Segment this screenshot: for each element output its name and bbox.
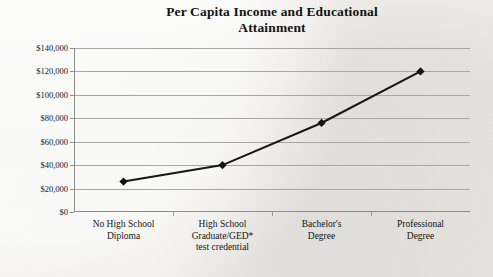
chart-title: Per Capita Income and Educational Attain… bbox=[74, 4, 470, 35]
plot-area bbox=[74, 48, 470, 212]
x-axis-tick bbox=[173, 212, 174, 216]
y-axis-tick bbox=[70, 212, 74, 213]
y-axis-label: $120,000 bbox=[0, 67, 68, 76]
x-axis-tick bbox=[371, 212, 372, 216]
data-series bbox=[74, 48, 470, 212]
x-axis-category-label: ProfessionalDegree bbox=[371, 219, 470, 242]
y-axis-label: $80,000 bbox=[0, 114, 68, 123]
x-axis-category-label: High SchoolGraduate/GED*test credential bbox=[173, 219, 272, 254]
chart-figure: Per Capita Income and Educational Attain… bbox=[0, 0, 493, 277]
y-axis-label: $140,000 bbox=[0, 44, 68, 53]
y-axis-label: $0 bbox=[0, 208, 68, 217]
x-axis-category-label-line: Diploma bbox=[74, 231, 173, 243]
x-axis-category-label-line: test credential bbox=[173, 242, 272, 254]
data-point-marker bbox=[416, 67, 424, 75]
series-line bbox=[124, 71, 421, 181]
chart-title-line-2: Attainment bbox=[238, 20, 306, 35]
y-axis-label: $60,000 bbox=[0, 138, 68, 147]
series-markers bbox=[119, 67, 424, 185]
data-point-marker bbox=[218, 161, 226, 169]
x-axis-category-label-line: Degree bbox=[371, 231, 470, 243]
data-point-marker bbox=[317, 119, 325, 127]
y-axis-label: $40,000 bbox=[0, 161, 68, 170]
x-axis-category-label-line: High School bbox=[173, 219, 272, 231]
y-axis-label: $100,000 bbox=[0, 91, 68, 100]
x-axis-category-label-line: Bachelor's bbox=[272, 219, 371, 231]
chart-title-line-1: Per Capita Income and Educational bbox=[166, 4, 378, 19]
x-axis-category-label-line: Graduate/GED* bbox=[173, 231, 272, 243]
x-axis-category-label-line: Professional bbox=[371, 219, 470, 231]
x-axis-category-label-line: Degree bbox=[272, 231, 371, 243]
x-axis-category-label: Bachelor'sDegree bbox=[272, 219, 371, 242]
x-axis-tick bbox=[272, 212, 273, 216]
data-point-marker bbox=[119, 177, 127, 185]
x-axis-category-label-line: No High School bbox=[74, 219, 173, 231]
y-axis-label: $20,000 bbox=[0, 185, 68, 194]
x-axis-category-label: No High SchoolDiploma bbox=[74, 219, 173, 242]
